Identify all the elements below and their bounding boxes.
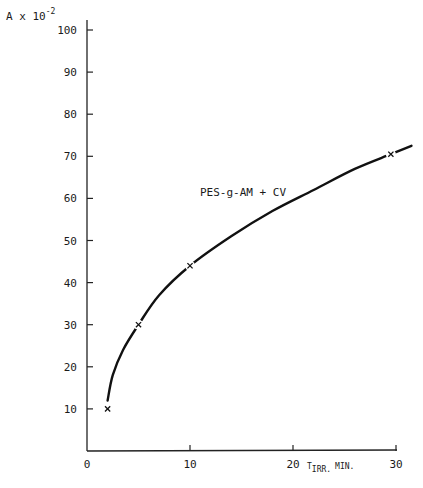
- x-tick-label: 10: [183, 458, 196, 471]
- y-tick-label: 30: [64, 319, 77, 332]
- y-tick-label: 40: [64, 277, 77, 290]
- y-axis-label: A x 10-2: [6, 7, 56, 23]
- series-annotation: PES-g-AM + CV: [200, 186, 286, 199]
- y-tick-label: 70: [64, 150, 77, 163]
- x-tick-label: 30: [389, 458, 402, 471]
- data-point-marker: [134, 320, 144, 330]
- data-curve: [108, 146, 412, 401]
- y-tick-label: 50: [64, 235, 77, 248]
- y-tick-label: 20: [64, 361, 77, 374]
- axes: [87, 20, 397, 451]
- x-axis-line: [87, 450, 397, 451]
- y-tick-label: 80: [64, 108, 77, 121]
- data-point-marker: [105, 406, 110, 411]
- y-tick-label: 90: [64, 66, 77, 79]
- y-tick-label: 100: [57, 24, 77, 37]
- y-tick-label: 60: [64, 192, 77, 205]
- x-tick-label: 0: [84, 458, 91, 471]
- y-tick-label: 10: [64, 403, 77, 416]
- chart: 1020304050607080901000102030 A x 10-2 PE…: [0, 0, 423, 488]
- x-axis-label: TIRR.MIN.: [307, 462, 354, 474]
- x-tick-label: 20: [286, 458, 299, 471]
- data-point-marker: [185, 261, 195, 271]
- data-point-marker: [386, 149, 396, 159]
- ticks: 1020304050607080901000102030: [57, 24, 403, 471]
